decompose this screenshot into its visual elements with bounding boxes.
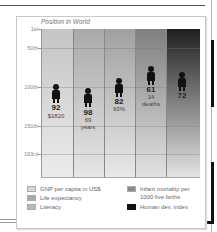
person-icon <box>115 78 123 97</box>
stat-value: 93% <box>104 106 134 113</box>
y-tick-label: 100th <box>16 84 38 90</box>
legend-label: 1000 live births <box>140 194 180 201</box>
legend-label: Life expectancy <box>40 195 82 202</box>
legend-swatch <box>27 204 36 210</box>
rank-value: 72 <box>167 91 197 100</box>
y-tick-label: 50th <box>16 45 38 51</box>
legend-label: Infant mortality per <box>140 186 190 193</box>
y-tick <box>38 29 42 30</box>
page-header-rule <box>0 0 205 6</box>
y-tick-label: 1st <box>16 26 38 32</box>
stat-value: 69 <box>73 117 103 124</box>
stat-unit: years <box>73 124 103 131</box>
person-icon <box>178 72 186 91</box>
stat-value: $1820 <box>41 113 71 120</box>
y-tick <box>38 154 42 155</box>
rank-value: 98 <box>73 108 103 117</box>
legend-label: Human dev. index <box>140 204 188 211</box>
gridline <box>41 126 199 127</box>
legend-label: Literacy <box>40 204 61 211</box>
page-rule <box>0 219 16 223</box>
legend-swatch <box>27 195 36 201</box>
rank-value: 61 <box>136 85 166 94</box>
legend-swatch <box>27 186 36 192</box>
gridline <box>41 48 199 49</box>
stat-value: 14 <box>136 94 166 101</box>
legend-label: GNP per capita in US$ <box>40 186 101 193</box>
legend-swatch <box>127 186 136 192</box>
person-icon <box>52 84 60 103</box>
person-icon <box>147 66 155 85</box>
y-tick <box>38 87 42 88</box>
rank-value: 82 <box>104 97 134 106</box>
person-icon <box>84 88 92 107</box>
page-edge-bar <box>211 40 214 107</box>
rank-value: 92 <box>41 103 71 112</box>
y-tick-label: 193rd <box>16 151 38 157</box>
y-tick-label: 150th <box>16 123 38 129</box>
y-tick <box>38 48 42 49</box>
page-edge-bar <box>207 221 214 224</box>
gridline <box>41 154 199 155</box>
page-edge-bar <box>211 162 214 224</box>
chart-title: Position in World <box>41 18 90 25</box>
legend-swatch <box>127 204 136 210</box>
stat-unit: deaths <box>136 101 166 108</box>
y-tick <box>38 126 42 127</box>
